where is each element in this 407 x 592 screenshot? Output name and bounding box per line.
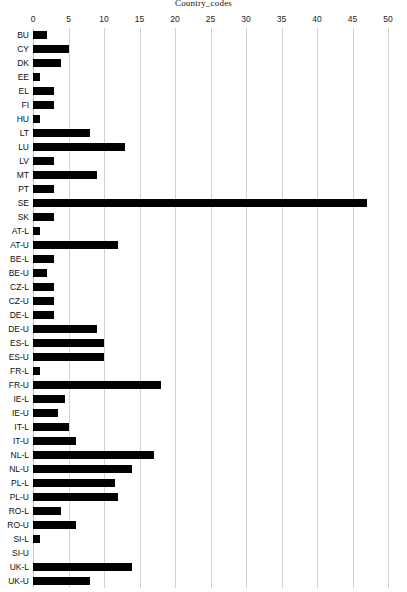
- bar-si-l: [33, 535, 40, 543]
- bar-dk: [33, 59, 61, 67]
- bar-el: [33, 87, 54, 95]
- category-label-es-u: ES-U: [0, 352, 29, 362]
- bar-row: CY: [0, 42, 407, 56]
- category-label-ro-u: RO-U: [0, 520, 29, 530]
- bar-row: NL-U: [0, 462, 407, 476]
- bar-row: NL-L: [0, 448, 407, 462]
- category-label-ro-l: RO-L: [0, 506, 29, 516]
- bar-mt: [33, 171, 97, 179]
- category-label-ee: EE: [0, 72, 29, 82]
- bar-ie-l: [33, 395, 65, 403]
- bar-row: ES-U: [0, 350, 407, 364]
- bar-row: IE-L: [0, 392, 407, 406]
- bar-fr-u: [33, 381, 161, 389]
- bar-row: UK-U: [0, 574, 407, 588]
- bar-row: AT-U: [0, 238, 407, 252]
- category-label-se: SE: [0, 198, 29, 208]
- bar-row: ES-L: [0, 336, 407, 350]
- x-tick-label-40: 40: [312, 14, 321, 24]
- bar-row: EE: [0, 70, 407, 84]
- category-label-cz-l: CZ-L: [0, 282, 29, 292]
- category-label-be-u: BE-U: [0, 268, 29, 278]
- bar-row: BU: [0, 28, 407, 42]
- bar-es-l: [33, 339, 104, 347]
- bar-row: FR-L: [0, 364, 407, 378]
- bar-uk-l: [33, 563, 132, 571]
- bar-cy: [33, 45, 69, 53]
- category-label-es-l: ES-L: [0, 338, 29, 348]
- x-tick-label-15: 15: [135, 14, 144, 24]
- category-label-fr-u: FR-U: [0, 380, 29, 390]
- bar-row: LV: [0, 154, 407, 168]
- bar-row: SK: [0, 210, 407, 224]
- bar-lt: [33, 129, 90, 137]
- bar-row: SE: [0, 196, 407, 210]
- bar-row: MT: [0, 168, 407, 182]
- bar-row: EL: [0, 84, 407, 98]
- bar-ro-l: [33, 507, 61, 515]
- bar-hu: [33, 115, 40, 123]
- x-tick-label-5: 5: [66, 14, 71, 24]
- bar-row: LT: [0, 126, 407, 140]
- chart-title: Country_codes: [0, 0, 407, 8]
- bar-pl-l: [33, 479, 115, 487]
- category-label-fr-l: FR-L: [0, 366, 29, 376]
- category-label-si-u: SI-U: [0, 548, 29, 558]
- category-label-ie-u: IE-U: [0, 408, 29, 418]
- x-tick-label-25: 25: [206, 14, 215, 24]
- category-label-de-l: DE-L: [0, 310, 29, 320]
- bar-pt: [33, 185, 54, 193]
- category-label-lu: LU: [0, 142, 29, 152]
- category-label-si-l: SI-L: [0, 534, 29, 544]
- category-label-mt: MT: [0, 170, 29, 180]
- bar-row: CZ-L: [0, 280, 407, 294]
- category-label-at-l: AT-L: [0, 226, 29, 236]
- bar-fr-l: [33, 367, 40, 375]
- bar-lu: [33, 143, 125, 151]
- bar-row: SI-U: [0, 546, 407, 560]
- category-label-uk-l: UK-L: [0, 562, 29, 572]
- bar-row: IT-L: [0, 420, 407, 434]
- category-label-el: EL: [0, 86, 29, 96]
- bar-it-l: [33, 423, 69, 431]
- category-label-cz-u: CZ-U: [0, 296, 29, 306]
- bar-ie-u: [33, 409, 58, 417]
- bar-row: IT-U: [0, 434, 407, 448]
- bar-row: RO-L: [0, 504, 407, 518]
- bar-row: DK: [0, 56, 407, 70]
- category-label-fi: FI: [0, 100, 29, 110]
- bar-at-u: [33, 241, 118, 249]
- x-tick-label-0: 0: [31, 14, 36, 24]
- bar-be-u: [33, 269, 47, 277]
- category-label-lv: LV: [0, 156, 29, 166]
- bar-chart: Country_codes 05101520253035404550 BUCYD…: [0, 0, 407, 592]
- category-label-pl-l: PL-L: [0, 478, 29, 488]
- bar-rows: BUCYDKEEELFIHULTLULVMTPTSESKAT-LAT-UBE-L…: [0, 28, 407, 588]
- bar-row: RO-U: [0, 518, 407, 532]
- x-tick-label-50: 50: [383, 14, 392, 24]
- bar-row: BE-U: [0, 266, 407, 280]
- category-label-uk-u: UK-U: [0, 576, 29, 586]
- bar-row: DE-U: [0, 322, 407, 336]
- bar-row: FR-U: [0, 378, 407, 392]
- category-label-it-l: IT-L: [0, 422, 29, 432]
- bar-row: UK-L: [0, 560, 407, 574]
- category-label-at-u: AT-U: [0, 240, 29, 250]
- bar-cz-l: [33, 283, 54, 291]
- category-label-bu: BU: [0, 30, 29, 40]
- bar-sk: [33, 213, 54, 221]
- bar-it-u: [33, 437, 76, 445]
- bar-row: BE-L: [0, 252, 407, 266]
- category-label-pl-u: PL-U: [0, 492, 29, 502]
- bar-row: SI-L: [0, 532, 407, 546]
- bar-es-u: [33, 353, 104, 361]
- bar-row: CZ-U: [0, 294, 407, 308]
- category-label-sk: SK: [0, 212, 29, 222]
- bar-bu: [33, 31, 47, 39]
- bar-row: FI: [0, 98, 407, 112]
- x-tick-label-10: 10: [99, 14, 108, 24]
- bar-de-l: [33, 311, 54, 319]
- category-label-pt: PT: [0, 184, 29, 194]
- x-tick-label-20: 20: [170, 14, 179, 24]
- x-axis-tick-labels: 05101520253035404550: [0, 14, 407, 28]
